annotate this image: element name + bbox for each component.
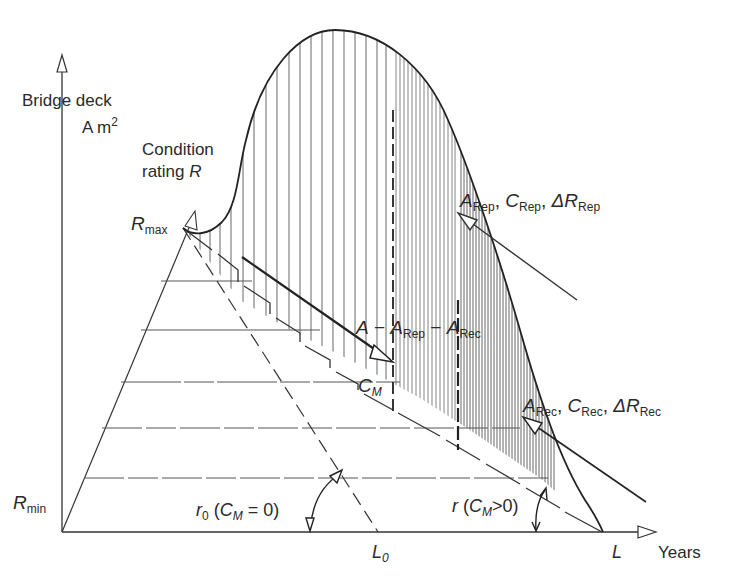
r0-deterioration-line <box>183 228 378 532</box>
vertical-axis-title: Bridge deck <box>22 92 112 109</box>
condition-axis-title: Condition <box>142 141 214 158</box>
l-label: L <box>612 543 622 561</box>
horizontal-axis <box>62 526 656 538</box>
rating-gridlines <box>84 281 548 478</box>
condition-axis-arrowhead-icon <box>185 211 197 230</box>
horizontal-axis-title: Years <box>658 544 701 561</box>
condition-variable: R <box>189 162 201 181</box>
r-angle-arc <box>532 488 547 531</box>
condition-axis <box>62 211 197 532</box>
rep-annotation: ARep, CRep, ΔRRep <box>460 191 600 213</box>
r0-angle-arc <box>306 470 342 531</box>
vertical-axis <box>57 55 67 532</box>
l0-label: L0 <box>372 543 389 564</box>
rec-annotation: ARec, CRec, ΔRRec <box>523 396 661 418</box>
horizontal-axis-arrowhead-icon <box>638 526 656 538</box>
vertical-axis-unit: A m2 <box>82 116 118 136</box>
r0-label: r0 (CM = 0) <box>196 501 279 522</box>
r-label: r (CM>0) <box>452 497 519 518</box>
cm-label: CM <box>358 376 382 398</box>
unit-text: A m <box>82 118 111 137</box>
unit-superscript: 2 <box>111 115 118 129</box>
r-max-label: Rmax <box>131 214 167 236</box>
condition-axis-subtitle: rating R <box>142 163 202 180</box>
diagram-canvas <box>0 0 731 584</box>
remaining-area-annotation: A − ARep − ARec <box>356 318 481 340</box>
cm-arrowhead-icon <box>370 345 393 362</box>
rec-arrow <box>523 417 646 502</box>
vertical-axis-arrowhead-icon <box>57 55 67 72</box>
cm-arrow <box>242 257 393 362</box>
condition-text: rating <box>142 162 189 181</box>
r-min-label: Rmin <box>13 493 46 515</box>
